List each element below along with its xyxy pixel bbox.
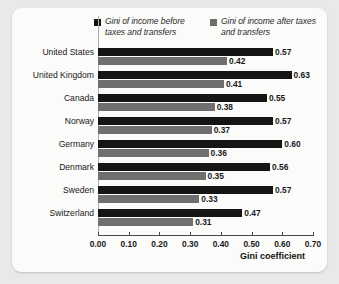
bar-value-label: 0.42 [229,57,245,65]
bar-dark [98,94,267,102]
bar-group: Germany0.600.36 [98,140,313,163]
x-tick-label: 0.30 [182,239,198,249]
bar-dark [98,117,273,125]
category-label: Sweden [16,185,94,195]
plot-area: United States0.570.42United Kingdom0.630… [98,46,313,236]
legend-entry-after-taxes: Gini of income after taxes and transfers [210,16,318,46]
category-label: Denmark [16,162,94,172]
chart-card: Gini of income before taxes and transfer… [12,8,327,272]
legend-entry-before-taxes: Gini of income before taxes and transfer… [94,16,202,46]
x-tick-mark [313,232,314,236]
bar-dark [98,140,282,148]
bar-value-label: 0.47 [244,209,260,217]
bar-rows: United States0.570.42United Kingdom0.630… [98,46,313,234]
category-label: Switzerland [16,208,94,218]
bar-value-label: 0.37 [214,126,230,134]
category-label: Canada [16,93,94,103]
x-tick-label: 0.40 [213,239,229,249]
chart-legend: Gini of income before taxes and transfer… [94,16,320,46]
bar-light [98,57,227,65]
bar-group: Denmark0.560.35 [98,163,313,186]
category-label: United States [16,47,94,57]
legend-label-after-taxes: Gini of income after taxes and transfers [221,16,318,37]
bar-dark [98,186,273,194]
legend-swatch-light-icon [210,19,217,26]
bar-value-label: 0.38 [217,103,233,111]
bar-value-label: 0.33 [201,195,217,203]
bar-group: Sweden0.570.33 [98,186,313,209]
bar-value-label: 0.31 [195,218,211,226]
category-label: United Kingdom [16,70,94,80]
category-label: Norway [16,116,94,126]
bar-dark [98,209,242,217]
bar-value-label: 0.36 [211,149,227,157]
bar-value-label: 0.60 [284,140,300,148]
bar-group: Canada0.550.38 [98,94,313,117]
bar-group: United States0.570.42 [98,48,313,71]
bar-dark [98,48,273,56]
bar-light [98,149,209,157]
x-tick-label: 0.60 [274,239,290,249]
bar-group: United Kingdom0.630.41 [98,71,313,94]
x-tick-label: 0.00 [90,239,106,249]
bar-value-label: 0.41 [226,80,242,88]
x-tick-label: 0.50 [243,239,259,249]
bar-dark [98,163,270,171]
x-tick-label: 0.20 [151,239,167,249]
bar-value-label: 0.57 [275,48,291,56]
bar-light [98,103,215,111]
bar-value-label: 0.56 [272,163,288,171]
bar-dark [98,71,292,79]
bar-light [98,195,199,203]
x-tick-label: 0.10 [121,239,137,249]
bar-value-label: 0.35 [208,172,224,180]
bar-group: Norway0.570.37 [98,117,313,140]
category-label: Germany [16,139,94,149]
x-tick-label: 0.70 [305,239,321,249]
bar-value-label: 0.57 [275,186,291,194]
bar-light [98,172,206,180]
bar-group: Switzerland0.470.31 [98,209,313,232]
bar-value-label: 0.55 [269,94,285,102]
x-axis-title: Gini coefficient [240,251,305,261]
bar-light [98,218,193,226]
bar-light [98,80,224,88]
bar-value-label: 0.63 [294,71,310,79]
bar-value-label: 0.57 [275,117,291,125]
bar-light [98,126,212,134]
legend-label-before-taxes: Gini of income before taxes and transfer… [105,16,202,37]
